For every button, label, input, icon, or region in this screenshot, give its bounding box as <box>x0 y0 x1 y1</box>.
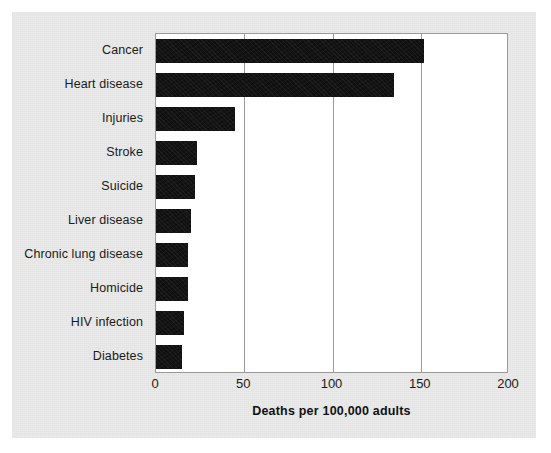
x-tick-label: 100 <box>321 376 343 391</box>
bars-layer <box>156 34 507 372</box>
y-axis-label: Suicide <box>101 174 143 198</box>
x-tick-label: 0 <box>151 376 158 391</box>
y-axis-label: Cancer <box>102 38 143 62</box>
y-axis-label: Homicide <box>90 276 143 300</box>
bar <box>156 73 394 97</box>
y-axis-label: Injuries <box>102 106 143 130</box>
bar <box>156 243 188 267</box>
y-axis-label: Heart disease <box>65 72 143 96</box>
bar-row <box>156 277 188 301</box>
bar-row <box>156 345 182 369</box>
x-axis-title: Deaths per 100,000 adults <box>155 404 508 418</box>
bar-row <box>156 73 394 97</box>
bar <box>156 175 195 199</box>
y-axis-label: Liver disease <box>68 208 143 232</box>
bar-row <box>156 243 188 267</box>
bar <box>156 39 424 63</box>
x-tick-label: 200 <box>497 376 519 391</box>
bar <box>156 107 235 131</box>
x-tick-label: 150 <box>409 376 431 391</box>
y-axis-label: HIV infection <box>71 310 143 334</box>
bar-row <box>156 209 191 233</box>
bar <box>156 311 184 335</box>
x-tick-label: 50 <box>236 376 250 391</box>
x-axis-tick-labels: 050100150200 <box>155 376 508 396</box>
bar <box>156 141 197 165</box>
bar <box>156 277 188 301</box>
bar-row <box>156 39 424 63</box>
bar <box>156 345 182 369</box>
y-axis-label: Diabetes <box>93 344 143 368</box>
y-axis-labels: CancerHeart diseaseInjuriesStrokeSuicide… <box>12 33 151 373</box>
y-axis-label: Chronic lung disease <box>24 242 143 266</box>
bar-row <box>156 311 184 335</box>
bar-row <box>156 141 197 165</box>
y-axis-label: Stroke <box>106 140 143 164</box>
bar-row <box>156 175 195 199</box>
chart-page: CancerHeart diseaseInjuriesStrokeSuicide… <box>0 0 551 453</box>
plot-area <box>155 33 508 373</box>
bar-row <box>156 107 235 131</box>
bar <box>156 209 191 233</box>
